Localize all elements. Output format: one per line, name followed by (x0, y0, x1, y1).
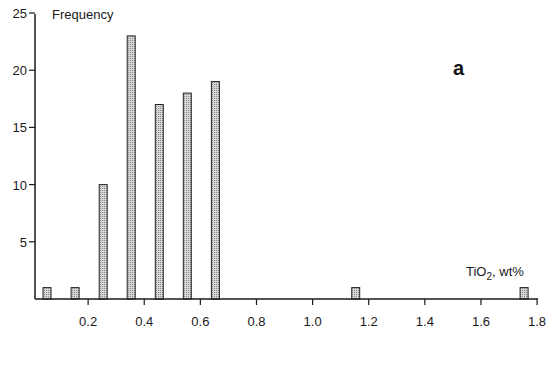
x-tick-label: 1.2 (360, 314, 378, 329)
histogram-bar (99, 185, 107, 299)
x-tick-label: 1.8 (528, 314, 546, 329)
histogram-bar (127, 36, 135, 299)
y-tick-label: 15 (13, 120, 27, 135)
x-tick-label: 1.6 (472, 314, 490, 329)
x-tick-label: 0.4 (135, 314, 153, 329)
y-tick-label: 10 (13, 178, 27, 193)
histogram-bar (352, 288, 360, 299)
y-tick-label: 5 (20, 235, 27, 250)
x-tick-label: 1.4 (416, 314, 434, 329)
histogram-bar (520, 288, 528, 299)
x-ticks: 0.20.40.60.81.01.21.41.61.8 (79, 299, 546, 329)
x-tick-label: 1.0 (304, 314, 322, 329)
y-tick-label: 25 (13, 6, 27, 21)
histogram-bar (155, 105, 163, 300)
x-tick-label: 0.2 (79, 314, 97, 329)
x-tick-label: 0.6 (191, 314, 209, 329)
histogram-bar (211, 82, 219, 299)
x-axis-title: TiO2, wt% (466, 264, 524, 282)
histogram-bar (183, 93, 191, 299)
panel-label: a (453, 57, 465, 79)
y-axis-title: Frequency (52, 7, 114, 22)
histogram-bar (71, 288, 79, 299)
x-tick-label: 0.8 (247, 314, 265, 329)
y-tick-label: 20 (13, 63, 27, 78)
histogram-chart: 510152025 0.20.40.60.81.01.21.41.61.8 Fr… (0, 0, 546, 376)
y-ticks: 510152025 (13, 6, 35, 250)
histogram-bar (43, 288, 51, 299)
